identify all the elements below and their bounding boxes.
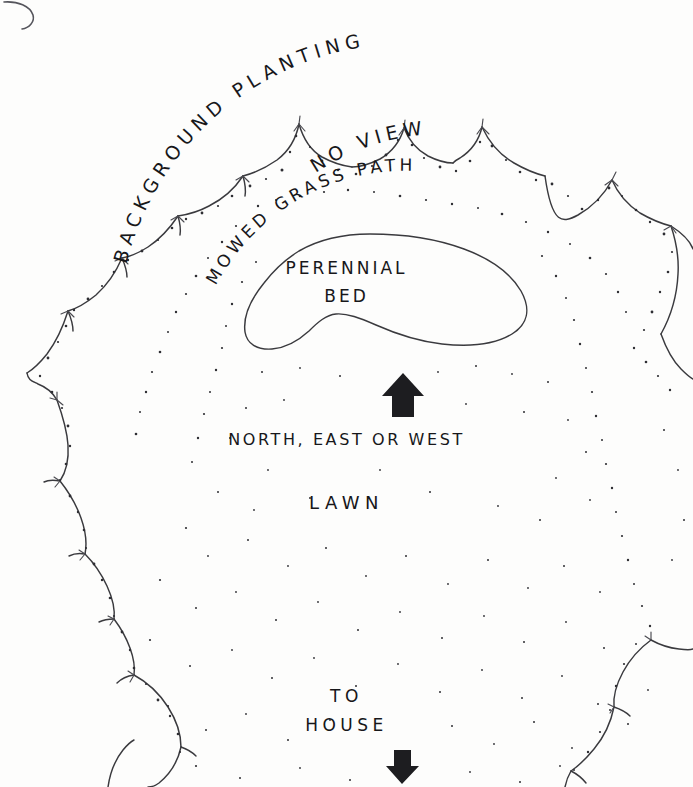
to-house-arrow-icon xyxy=(386,750,419,784)
to-house-label-line2: HOUSE xyxy=(0,715,693,735)
to-house-label-line1: TO xyxy=(0,686,693,706)
perennial-bed-label-line2: BED xyxy=(0,286,693,306)
line-art-layer: BACKGROUND PLANTING NO VIEW MOWED GRASS … xyxy=(0,0,693,787)
perennial-bed-label-line1: PERENNIAL xyxy=(0,258,693,278)
lawn-label: LAWN xyxy=(0,492,693,513)
corner-arc-mark xyxy=(4,2,33,29)
north-arrow-icon xyxy=(382,373,424,417)
orientation-label: NORTH, EAST OR WEST xyxy=(0,430,693,449)
garden-plan-drawing: BACKGROUND PLANTING NO VIEW MOWED GRASS … xyxy=(0,0,693,787)
